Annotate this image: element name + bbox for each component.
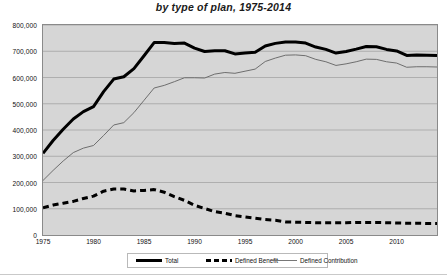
x-tick-label: 1980: [86, 238, 101, 245]
plot-area: [42, 24, 438, 236]
y-tick-label: 200,000: [12, 179, 37, 186]
y-axis-labels: 0100,000200,000300,000400,000500,000600,…: [0, 24, 40, 236]
x-axis-labels: 19751980198519901995200020052010: [42, 238, 438, 250]
legend-swatch-db-icon: [206, 257, 232, 265]
plot-inner: [43, 25, 437, 235]
y-tick-label: 800,000: [12, 22, 37, 29]
y-tick-label: 700,000: [12, 48, 37, 55]
series-line-defined-benefit: [43, 189, 437, 223]
y-tick-label: 600,000: [12, 74, 37, 81]
x-tick-label: 2005: [339, 238, 354, 245]
legend-swatch-dc-icon: [271, 257, 297, 265]
y-tick-label: 400,000: [12, 127, 37, 134]
legend-item-db[interactable]: Defined Benefit: [206, 254, 278, 267]
legend-item-total[interactable]: Total: [136, 254, 178, 267]
chart-legend: TotalDefined BenefitDefined Contribution: [127, 253, 328, 268]
chart-title: by type of plan, 1975-2014: [0, 1, 447, 13]
chart-svg: [43, 25, 437, 235]
x-tick-label: 1990: [187, 238, 202, 245]
legend-item-dc[interactable]: Defined Contribution: [271, 254, 357, 267]
x-tick-label: 1975: [36, 238, 51, 245]
y-tick-label: 300,000: [12, 153, 37, 160]
y-tick-label: 500,000: [12, 100, 37, 107]
legend-swatch-total-icon: [136, 257, 162, 265]
series-line-defined-contribution: [43, 55, 437, 181]
legend-label: Total: [165, 257, 178, 264]
chart-page: by type of plan, 1975-2014 0100,000200,0…: [0, 0, 447, 277]
x-tick-label: 2010: [389, 238, 404, 245]
x-tick-label: 1985: [137, 238, 152, 245]
legend-label: Defined Contribution: [300, 257, 357, 264]
x-tick-label: 1995: [238, 238, 253, 245]
y-tick-label: 100,000: [12, 205, 37, 212]
x-tick-label: 2000: [288, 238, 303, 245]
page-divider: [0, 274, 447, 275]
